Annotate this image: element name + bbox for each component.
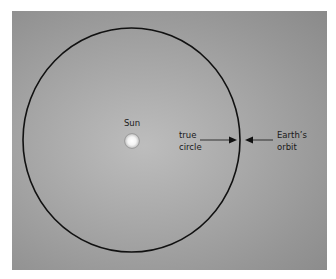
earth-orbit-label-line2: orbit <box>277 141 307 153</box>
earth-orbit-label: Earth’s orbit <box>277 129 307 153</box>
true-circle-label-line1: true <box>179 129 202 141</box>
earth-orbit-arrow-icon <box>245 137 273 144</box>
earth-orbit-label-line1: Earth’s <box>277 129 307 141</box>
sun-icon <box>125 134 140 149</box>
true-circle-label: true circle <box>179 129 202 153</box>
true-circle-label-line2: circle <box>179 141 202 153</box>
true-circle-arrow-icon <box>200 137 237 144</box>
sun-label: Sun <box>120 117 144 129</box>
